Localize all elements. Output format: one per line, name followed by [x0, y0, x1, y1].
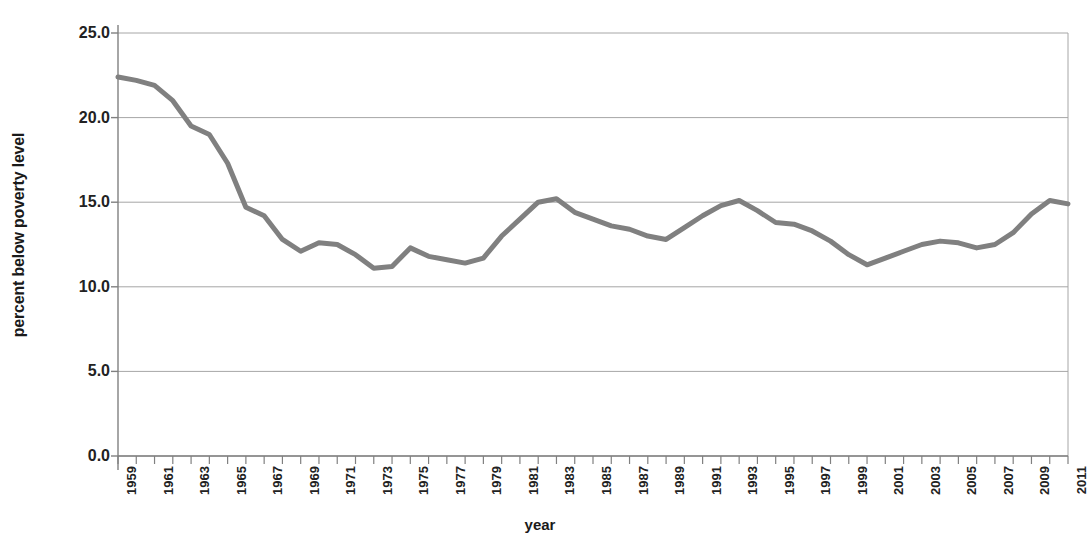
x-axis-tick-label: 1997	[818, 466, 833, 495]
x-axis-tick-label: 1983	[562, 466, 577, 495]
x-axis-tick-label: 1999	[855, 466, 870, 495]
x-axis-tick-label: 1971	[343, 466, 358, 495]
x-axis-tick-label: 2005	[964, 466, 979, 495]
x-axis-tick-label: 1993	[745, 466, 760, 495]
x-axis-tick-label: 2009	[1037, 466, 1052, 495]
x-axis-tick-labels: 1959196119631965196719691971197319751977…	[0, 466, 1080, 516]
x-axis-tick-label: 1995	[782, 466, 797, 495]
x-axis-tick-label: 1985	[599, 466, 614, 495]
x-axis-tick-label: 1967	[270, 466, 285, 495]
x-axis-tick-label: 1975	[416, 466, 431, 495]
x-axis-tick-label: 1987	[636, 466, 651, 495]
x-axis-tick-label: 1981	[526, 466, 541, 495]
x-axis-tick-label: 1961	[161, 466, 176, 495]
x-axis-title: year	[0, 516, 1080, 533]
x-axis-tick-label: 2001	[891, 466, 906, 495]
x-axis-tick-label: 1989	[672, 466, 687, 495]
x-axis-tick-label: 2003	[928, 466, 943, 495]
x-axis-tick-label: 1963	[197, 466, 212, 495]
x-axis-tick-label: 1959	[124, 466, 139, 495]
x-axis-tick-label: 1977	[453, 466, 468, 495]
x-axis-tick-label: 1969	[307, 466, 322, 495]
x-axis-tick-label: 1991	[709, 466, 724, 495]
x-axis-tick-label: 1965	[234, 466, 249, 495]
x-axis-tick-label: 2011	[1074, 466, 1089, 494]
x-axis-tick-label: 1973	[380, 466, 395, 495]
data-series-line	[118, 77, 1068, 268]
x-axis-tick-label: 1979	[489, 466, 504, 495]
x-axis-tick-label: 2007	[1001, 466, 1016, 495]
